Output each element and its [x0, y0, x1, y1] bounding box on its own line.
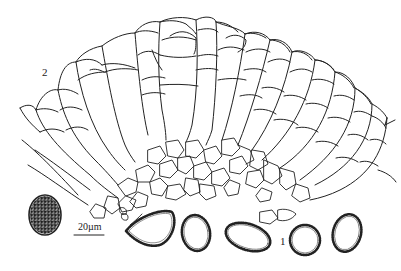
- line-drawing: [0, 0, 401, 271]
- scale-bar-label: 20µm: [78, 222, 102, 232]
- figure-label-1: 1: [280, 236, 286, 247]
- hymenium-columns: [20, 17, 396, 205]
- spores-optical-section: [126, 211, 365, 256]
- figure-plate: 2 1 20µm: [0, 0, 401, 271]
- figure-label-2: 2: [42, 67, 48, 78]
- ornamented-spore-surface: [29, 195, 61, 235]
- subhymenial-cells: [90, 138, 310, 225]
- spores-inner-wall: [129, 213, 363, 254]
